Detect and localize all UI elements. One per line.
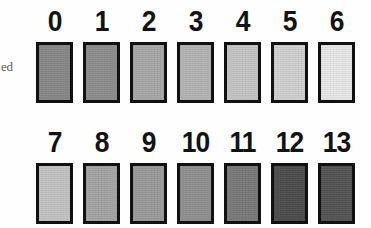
swatch-cell-2: 2 (130, 4, 167, 104)
swatch-cell-6: 6 (318, 4, 355, 104)
swatch-cell-12: 12 (271, 125, 308, 225)
swatch-label-6: 6 (316, 4, 357, 38)
swatch-patch-11 (224, 163, 261, 224)
swatch-cell-5: 5 (271, 4, 308, 104)
swatch-cell-9: 9 (130, 125, 167, 225)
swatch-patch-7 (36, 163, 73, 224)
swatch-patch-9 (130, 163, 167, 224)
swatch-patch-13 (318, 163, 355, 224)
swatch-label-2: 2 (128, 4, 169, 38)
swatch-label-5: 5 (269, 4, 310, 38)
swatch-label-11: 11 (222, 125, 263, 159)
swatch-label-1: 1 (81, 4, 122, 38)
swatch-cell-10: 10 (177, 125, 214, 225)
swatch-row-1: 0123456 (36, 4, 366, 104)
swatch-patch-0 (36, 42, 73, 103)
swatch-label-0: 0 (34, 4, 75, 38)
swatch-cell-1: 1 (83, 4, 120, 104)
swatch-patch-12 (271, 163, 308, 224)
swatch-label-12: 12 (269, 125, 310, 159)
edge-caption-fragment: ed (1, 58, 23, 76)
grayscale-swatch-figure: ed 0123456 78910111213 (0, 0, 371, 228)
swatch-patch-10 (177, 163, 214, 224)
swatch-label-4: 4 (222, 4, 263, 38)
swatch-patch-2 (130, 42, 167, 103)
swatch-cell-0: 0 (36, 4, 73, 104)
swatch-cell-4: 4 (224, 4, 261, 104)
swatch-label-10: 10 (175, 125, 216, 159)
swatch-label-9: 9 (128, 125, 169, 159)
swatch-cell-7: 7 (36, 125, 73, 225)
swatch-cell-13: 13 (318, 125, 355, 225)
swatch-cell-8: 8 (83, 125, 120, 225)
swatch-label-8: 8 (81, 125, 122, 159)
swatch-patch-1 (83, 42, 120, 103)
swatch-patch-4 (224, 42, 261, 103)
swatch-label-7: 7 (34, 125, 75, 159)
swatch-patch-8 (83, 163, 120, 224)
swatch-patch-6 (318, 42, 355, 103)
swatch-cell-11: 11 (224, 125, 261, 225)
swatch-patch-3 (177, 42, 214, 103)
swatch-cell-3: 3 (177, 4, 214, 104)
swatch-patch-5 (271, 42, 308, 103)
swatch-label-13: 13 (316, 125, 357, 159)
swatch-label-3: 3 (175, 4, 216, 38)
swatch-row-2: 78910111213 (36, 125, 366, 225)
